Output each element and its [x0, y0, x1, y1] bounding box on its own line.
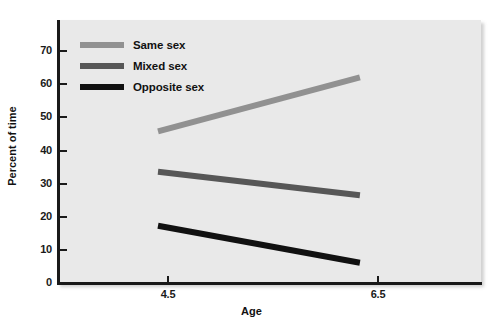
- series-line-opposite-sex: [158, 226, 360, 263]
- series-layer: [0, 0, 503, 327]
- legend-label-opposite-sex: Opposite sex: [133, 81, 204, 93]
- chart-legend: Same sex Mixed sex Opposite sex: [80, 34, 204, 97]
- legend-item-mixed-sex: Mixed sex: [80, 55, 204, 76]
- legend-item-opposite-sex: Opposite sex: [80, 76, 204, 97]
- legend-item-same-sex: Same sex: [80, 34, 204, 55]
- legend-swatch-same-sex: [80, 42, 124, 48]
- legend-swatch-mixed-sex: [80, 63, 124, 69]
- legend-swatch-opposite-sex: [80, 84, 124, 90]
- chart-figure: 70 60 50 40 30 20 10 0 4.5 6.5 Age Perce…: [0, 0, 503, 327]
- series-line-mixed-sex: [158, 172, 360, 196]
- legend-label-mixed-sex: Mixed sex: [133, 60, 187, 72]
- legend-label-same-sex: Same sex: [133, 39, 185, 51]
